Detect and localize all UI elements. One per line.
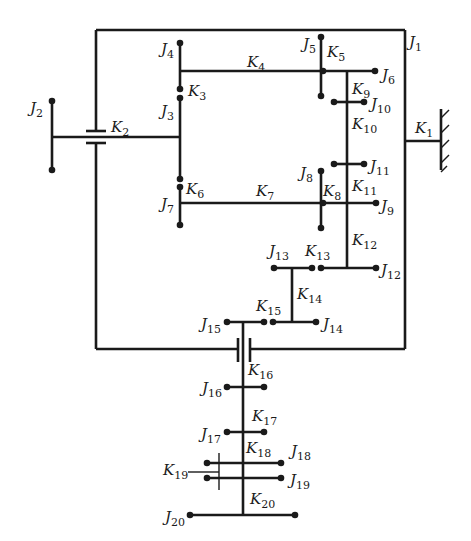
node-dot [224, 429, 231, 436]
node-dot [373, 265, 380, 272]
node-dot [331, 99, 338, 106]
node-dot [224, 319, 231, 326]
node-dot [278, 460, 285, 467]
node-dot [177, 222, 184, 229]
node-dot [331, 161, 338, 168]
node-dot [313, 319, 320, 326]
node-dot [318, 34, 325, 41]
node-dot [320, 200, 327, 207]
node-dot [292, 512, 299, 519]
node-dot [320, 68, 327, 75]
node-dot [177, 40, 184, 47]
node-dot [278, 475, 285, 482]
node-dot [271, 265, 278, 272]
node-dot [361, 161, 368, 168]
node-dot [177, 184, 184, 191]
network-diagram: J1J2J3J4J5J6J7J8J9J10J11J12J13J14J15J16J… [0, 0, 471, 541]
node-dot [177, 95, 184, 102]
node-dot [261, 319, 268, 326]
node-dot [204, 460, 211, 467]
node-dot [204, 475, 211, 482]
node-dot [270, 319, 277, 326]
node-dot [318, 168, 325, 175]
node-dot [318, 225, 325, 232]
node-dot [372, 68, 379, 75]
node-dot [49, 98, 56, 105]
node-dot [373, 200, 380, 207]
node-dot [177, 86, 184, 93]
node-dot [261, 384, 268, 391]
node-dot [318, 93, 325, 100]
node-dot [49, 167, 56, 174]
node-dot [318, 265, 325, 272]
node-dot [261, 429, 268, 436]
node-dot [224, 384, 231, 391]
node-dot [309, 265, 316, 272]
node-dot [187, 512, 194, 519]
node-dot [177, 176, 184, 183]
